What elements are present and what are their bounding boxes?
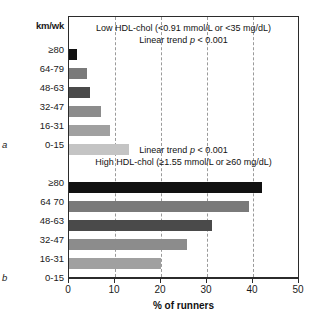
panel-b-annotation-line2: High HDL-chol (≥1.55 mmol/L or ≥60 mg/dL… [69, 157, 298, 169]
figure-container: km/wk Low HDL-chol (<0.91 mmol/L or <35 … [0, 0, 323, 322]
cat-label-b-64-79: 64 70 [8, 196, 64, 207]
bar-a-48-63 [69, 87, 90, 98]
cat-label-b-32-47: 32-47 [8, 234, 64, 245]
cat-label-a-0-15: 0-15 [8, 139, 64, 150]
bar-a-32-47 [69, 106, 101, 117]
x-tick-label-20: 20 [148, 284, 172, 295]
y-axis-group-title: km/wk [16, 20, 64, 31]
x-tick-label-30: 30 [194, 284, 218, 295]
bar-b-64-79 [69, 201, 249, 212]
cat-label-a-80plus: ≥80 [8, 44, 64, 55]
x-tick-20 [160, 278, 161, 283]
cat-label-b-48-63: 48-63 [8, 215, 64, 226]
panel-a-annotation-line1: Low HDL-chol (<0.91 mmol/L or <35 mg/dL) [69, 23, 298, 35]
cat-label-b-0-15: 0-15 [8, 272, 64, 283]
x-tick-label-10: 10 [102, 284, 126, 295]
x-tick-0 [68, 278, 69, 283]
bar-b-80plus [69, 182, 262, 193]
panel-b-annotation: Linear trend p < 0.001 High HDL-chol (≥1… [69, 145, 298, 168]
plot-area: Low HDL-chol (<0.91 mmol/L or <35 mg/dL)… [68, 16, 299, 278]
x-axis-line [68, 278, 299, 279]
x-tick-40 [252, 278, 253, 283]
cat-label-a-48-63: 48-63 [8, 82, 64, 93]
x-tick-30 [206, 278, 207, 283]
bar-b-32-47 [69, 239, 187, 250]
bar-b-16-31 [69, 258, 161, 269]
panel-b-annotation-line1: Linear trend p < 0.001 [69, 145, 298, 157]
panel-letter-b: b [2, 272, 7, 283]
x-tick-50 [298, 278, 299, 283]
x-axis-title: % of runners [68, 300, 299, 311]
x-tick-label-40: 40 [240, 284, 264, 295]
panel-a-annotation-line2: Linear trend p < 0.001 [69, 35, 298, 47]
panel-a-trend-pre: Linear trend [139, 35, 190, 45]
cat-label-b-16-31: 16-31 [8, 253, 64, 264]
cat-label-b-80plus: ≥80 [8, 177, 64, 188]
x-tick-label-0: 0 [56, 284, 80, 295]
cat-label-a-16-31: 16-31 [8, 120, 64, 131]
bar-a-64-79 [69, 68, 87, 79]
bar-a-16-31 [69, 125, 110, 136]
x-tick-label-50: 50 [286, 284, 310, 295]
bar-a-80plus [69, 49, 77, 60]
panel-b-trend-post: < 0.001 [195, 145, 228, 155]
panel-letter-a: a [2, 139, 7, 150]
x-tick-10 [114, 278, 115, 283]
cat-label-a-32-47: 32-47 [8, 101, 64, 112]
panel-b-trend-pre: Linear trend [139, 145, 190, 155]
cat-label-a-64-79: 64-79 [8, 63, 64, 74]
panel-a-trend-post: < 0.001 [195, 35, 228, 45]
panel-a-annotation: Low HDL-chol (<0.91 mmol/L or <35 mg/dL)… [69, 23, 298, 46]
bar-b-48-63 [69, 220, 212, 231]
